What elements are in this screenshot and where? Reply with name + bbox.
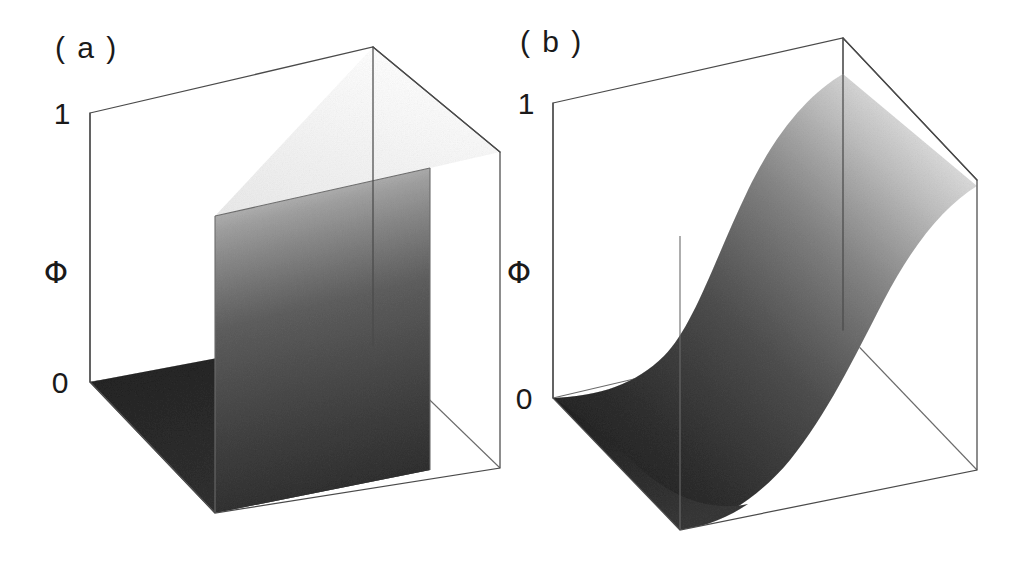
panel-a: ( a ) 1 0 Φ	[44, 31, 500, 513]
panel-b-axis-label-phi: Φ	[507, 254, 531, 290]
panel-b: ( b ) 1 0 Φ	[507, 25, 977, 538]
panel-a-tick-bottom: 0	[52, 366, 69, 399]
panel-b-label: ( b )	[520, 25, 583, 58]
panel-b-tick-bottom: 0	[516, 382, 533, 415]
panel-b-surface	[553, 74, 977, 538]
panel-a-surface	[90, 47, 500, 513]
panel-a-label: ( a )	[55, 31, 118, 64]
panel-b-tick-top: 1	[518, 87, 535, 120]
panel-a-axis-label-phi: Φ	[44, 254, 68, 290]
figure-canvas: ( a ) 1 0 Φ	[0, 0, 1027, 562]
panel-a-tick-top: 1	[54, 97, 71, 130]
